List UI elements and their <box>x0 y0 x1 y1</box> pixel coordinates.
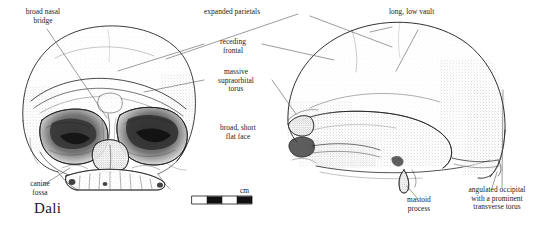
label-angulated-occipital: angulated occipital with a prominent tra… <box>452 186 542 212</box>
label-broad-short-flat-face: broad, short flat face <box>206 124 270 141</box>
frontal-cranium-view <box>18 26 200 190</box>
label-receding-frontal: receding frontal <box>205 38 261 55</box>
scale-bar <box>192 196 252 204</box>
maxilla-dentition <box>65 169 164 190</box>
label-broad-nasal-bridge: broad nasal bridge <box>6 8 80 25</box>
label-canine-fossa: canine fossa <box>14 180 66 197</box>
specimen-name-label: Dali <box>34 200 61 217</box>
nasal-aperture <box>92 140 128 173</box>
scale-bar-unit-label: cm <box>240 186 249 195</box>
label-massive-supraorbital-torus: massive supraorbital torus <box>203 68 269 94</box>
label-mastoid-process: mastoid process <box>396 196 442 213</box>
dali-cranium-figure: broad nasal bridge expanded parietals lo… <box>0 0 543 230</box>
mastoid-process-anatomy <box>399 170 416 193</box>
label-expanded-parietals: expanded parietals <box>204 8 300 17</box>
label-long-low-vault: long, low vault <box>389 8 479 17</box>
lateral-cranium-view <box>282 20 512 193</box>
